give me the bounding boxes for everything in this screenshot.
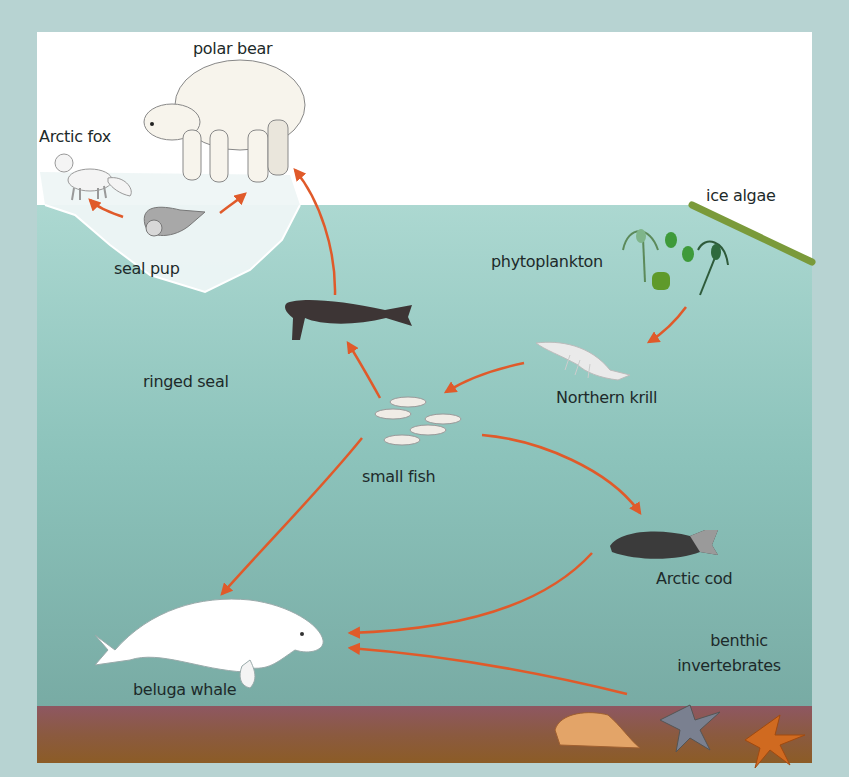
label-northern-krill: Northern krill	[556, 388, 657, 407]
label-small-fish: small fish	[362, 467, 435, 486]
label-polar-bear: polar bear	[193, 39, 272, 58]
label-ringed-seal: ringed seal	[143, 372, 229, 391]
label-arctic-cod: Arctic cod	[656, 569, 732, 588]
label-seal-pup: seal pup	[114, 259, 180, 278]
label-benthic-line1: benthic	[694, 631, 784, 650]
label-arctic-fox: Arctic fox	[39, 127, 111, 146]
label-beluga-whale: beluga whale	[133, 680, 236, 699]
label-benthic-line2: invertebrates	[667, 656, 791, 675]
label-phytoplankton: phytoplankton	[491, 252, 603, 271]
label-ice-algae: ice algae	[706, 186, 776, 205]
